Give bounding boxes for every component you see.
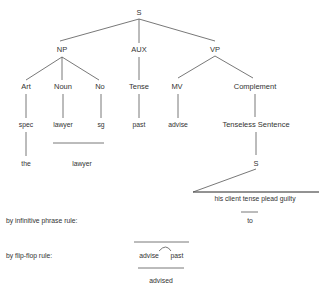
edge-vp-complement: [215, 56, 253, 78]
node-mv: MV: [171, 82, 182, 91]
node-aux: AUX: [131, 45, 146, 54]
node-the: the: [21, 160, 31, 167]
triangle-embedded-s: [193, 169, 319, 192]
flipflop-word-past: past: [171, 252, 184, 260]
node-tense: Tense: [129, 82, 149, 91]
node-advise: advise: [168, 121, 188, 128]
edge-s-vp: [139, 19, 215, 41]
rule-flipflop-label: by flip-flop rule:: [6, 252, 52, 260]
embedded-string: his client tense plead guilty: [214, 195, 296, 203]
flipflop-result: advised: [149, 277, 173, 284]
node-spec: spec: [19, 121, 34, 129]
node-noun: Noun: [54, 82, 72, 91]
node-past: past: [133, 121, 146, 129]
node-lawyer-merged: lawyer: [72, 160, 92, 168]
node-tenseless-sentence: Tenseless Sentence: [222, 120, 289, 129]
edge-vp-mv: [178, 56, 215, 78]
syntax-tree-diagram: S NP AUX VP Art Noun No Tense MV Complem…: [0, 0, 330, 299]
rule-infinitive-label: by infinitive phrase rule:: [6, 217, 78, 225]
node-no: No: [95, 82, 105, 91]
flipflop-arc-icon: [159, 247, 171, 251]
node-vp: VP: [210, 45, 220, 54]
node-s-root: S: [136, 8, 141, 17]
edge-np-art: [26, 57, 62, 80]
node-complement: Complement: [234, 82, 277, 91]
replacement-to: to: [247, 217, 253, 224]
node-s-embedded: S: [253, 159, 258, 168]
node-art: Art: [21, 82, 32, 91]
node-lawyer: lawyer: [53, 121, 73, 129]
node-np: NP: [57, 45, 67, 54]
node-sg: sg: [97, 121, 104, 129]
flipflop-word-advise: advise: [139, 252, 159, 259]
edge-s-np: [60, 19, 139, 41]
edge-np-no: [62, 57, 99, 80]
